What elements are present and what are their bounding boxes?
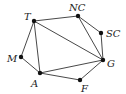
graph-diagram: TNCSCGFAM	[0, 0, 126, 94]
node-label-t: T	[24, 11, 32, 22]
node-f	[78, 78, 82, 82]
edge-t-nc	[34, 16, 78, 21]
node-label-a: A	[30, 78, 38, 89]
edge-t-m	[21, 21, 34, 57]
node-sc	[99, 31, 103, 35]
node-m	[19, 55, 23, 59]
node-nc	[76, 14, 80, 18]
node-t	[32, 19, 36, 23]
nodes-group	[19, 14, 105, 82]
edge-t-a	[34, 21, 40, 73]
node-a	[38, 71, 42, 75]
node-label-m: M	[6, 53, 18, 64]
edge-f-g	[80, 60, 103, 80]
edge-m-a	[21, 57, 40, 73]
edge-a-f	[40, 73, 80, 80]
node-g	[101, 58, 105, 62]
node-label-g: G	[107, 58, 115, 69]
edge-sc-g	[101, 33, 103, 60]
edge-a-g	[40, 60, 103, 73]
node-label-sc: SC	[106, 28, 121, 39]
edge-nc-sc	[78, 16, 101, 33]
labels-group: TNCSCGFAM	[6, 2, 121, 94]
node-label-nc: NC	[68, 2, 86, 13]
edges-group	[21, 16, 103, 80]
node-label-f: F	[80, 83, 89, 94]
